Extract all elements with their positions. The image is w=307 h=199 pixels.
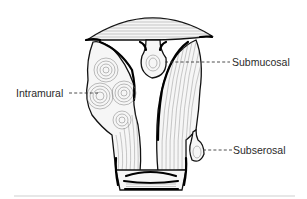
submucosal-fibroid <box>140 40 166 78</box>
submucosal-label: Submucosal <box>232 56 290 68</box>
uterine-fibroids-diagram: Intramural Submucosal Subserosal <box>0 0 307 199</box>
left-uterine-wall <box>87 42 141 172</box>
subserosal-label: Subserosal <box>233 144 286 156</box>
uterine-fundus <box>86 16 212 40</box>
intramural-label: Intramural <box>16 87 63 99</box>
diagram-canvas: Intramural Submucosal Subserosal <box>0 0 307 199</box>
